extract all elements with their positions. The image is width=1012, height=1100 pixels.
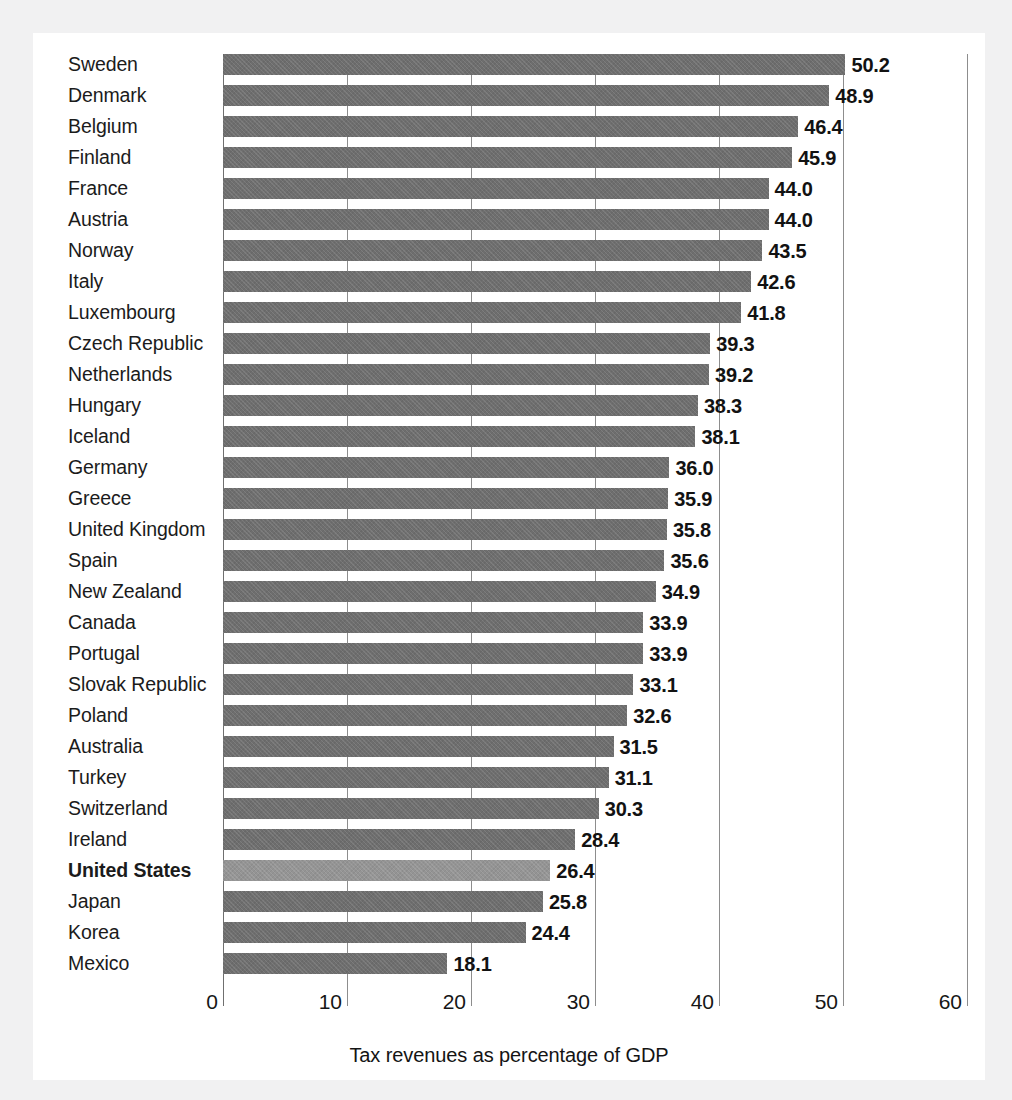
bar (223, 178, 769, 199)
bar-row: Iceland38.1 (33, 426, 985, 457)
bar-row: Turkey31.1 (33, 767, 985, 798)
bar (223, 426, 695, 447)
bar (223, 550, 664, 571)
bar (223, 953, 447, 974)
bar (223, 54, 845, 75)
bar (223, 891, 543, 912)
x-axis-title: Tax revenues as percentage of GDP (33, 1044, 985, 1067)
bar-row: Sweden50.2 (33, 54, 985, 85)
category-label: Italy (68, 271, 216, 292)
bar-value-label: 36.0 (675, 457, 713, 478)
bar-row: Canada33.9 (33, 612, 985, 643)
x-axis-tick-labels: 0102030405060 (33, 990, 985, 1030)
category-label: Hungary (68, 395, 216, 416)
x-tick-label-40: 40 (691, 990, 719, 1014)
category-label: Slovak Republic (68, 674, 216, 695)
bar-row: Belgium46.4 (33, 116, 985, 147)
bar (223, 581, 656, 602)
category-label: Greece (68, 488, 216, 509)
bar (223, 85, 829, 106)
x-tick-label-10: 10 (319, 990, 347, 1014)
bar-value-label: 28.4 (581, 829, 619, 850)
bar-row: New Zealand34.9 (33, 581, 985, 612)
bar (223, 612, 643, 633)
bar-value-label: 39.2 (715, 364, 753, 385)
bar (223, 798, 599, 819)
bar-value-label: 31.5 (620, 736, 658, 757)
bar-row: Finland45.9 (33, 147, 985, 178)
bar-row: Denmark48.9 (33, 85, 985, 116)
x-tick-label-50: 50 (815, 990, 843, 1014)
bar-row: Italy42.6 (33, 271, 985, 302)
bar-value-label: 31.1 (615, 767, 653, 788)
bar-value-label: 42.6 (757, 271, 795, 292)
bar-value-label: 46.4 (804, 116, 842, 137)
category-label: Spain (68, 550, 216, 571)
bar-row: Japan25.8 (33, 891, 985, 922)
category-label: Korea (68, 922, 216, 943)
category-label: Austria (68, 209, 216, 230)
category-label: Norway (68, 240, 216, 261)
category-label: Australia (68, 736, 216, 757)
bar-value-label: 45.9 (798, 147, 836, 168)
x-tick-label-20: 20 (443, 990, 471, 1014)
x-tick-label-30: 30 (567, 990, 595, 1014)
bar-row: Austria44.0 (33, 209, 985, 240)
category-label: Finland (68, 147, 216, 168)
bar-value-label: 43.5 (768, 240, 806, 261)
category-label: Canada (68, 612, 216, 633)
bar (223, 829, 575, 850)
bar-value-label: 35.9 (674, 488, 712, 509)
bar (223, 674, 633, 695)
bar-row: Czech Republic39.3 (33, 333, 985, 364)
category-label: United Kingdom (68, 519, 216, 540)
bar-row: Mexico18.1 (33, 953, 985, 984)
bar-row: France44.0 (33, 178, 985, 209)
bar (223, 271, 751, 292)
figure-panel: Sweden50.2Denmark48.9Belgium46.4Finland4… (33, 33, 985, 1080)
bar (223, 147, 792, 168)
category-label: Netherlands (68, 364, 216, 385)
bar (223, 333, 710, 354)
bar (223, 519, 667, 540)
bar (223, 240, 762, 261)
bar-row: United Kingdom35.8 (33, 519, 985, 550)
x-tick-label-60: 60 (939, 990, 967, 1014)
bar-value-label: 26.4 (556, 860, 594, 881)
category-label: Poland (68, 705, 216, 726)
bar-value-label: 35.6 (670, 550, 708, 571)
bar-row: Norway43.5 (33, 240, 985, 271)
bar (223, 488, 668, 509)
bar-value-label: 34.9 (662, 581, 700, 602)
bar-value-label: 18.1 (453, 953, 491, 974)
bar-value-label: 39.3 (716, 333, 754, 354)
bar-chart-plot-area: Sweden50.2Denmark48.9Belgium46.4Finland4… (33, 33, 985, 1080)
bar (223, 302, 741, 323)
bar-value-label: 33.1 (639, 674, 677, 695)
bar-row: Spain35.6 (33, 550, 985, 581)
bar (223, 922, 526, 943)
bar-row: Portugal33.9 (33, 643, 985, 674)
category-label: Luxembourg (68, 302, 216, 323)
category-label: France (68, 178, 216, 199)
bar-row: Switzerland30.3 (33, 798, 985, 829)
category-label: Turkey (68, 767, 216, 788)
category-label: Ireland (68, 829, 216, 850)
bar-value-label: 41.8 (747, 302, 785, 323)
bar-row: Slovak Republic33.1 (33, 674, 985, 705)
category-label: Iceland (68, 426, 216, 447)
bar (223, 457, 669, 478)
page-top-cutoff-text (0, 0, 1012, 26)
scanned-page: Sweden50.2Denmark48.9Belgium46.4Finland4… (0, 0, 1012, 1100)
bar-row: Luxembourg41.8 (33, 302, 985, 333)
bar-value-label: 24.4 (532, 922, 570, 943)
bar-value-label: 25.8 (549, 891, 587, 912)
category-label: Portugal (68, 643, 216, 664)
bar (223, 116, 798, 137)
bar (223, 643, 643, 664)
bar-row: Hungary38.3 (33, 395, 985, 426)
bar-value-label: 30.3 (605, 798, 643, 819)
category-label: United States (68, 860, 216, 881)
category-label: Sweden (68, 54, 216, 75)
bar-value-label: 44.0 (775, 178, 813, 199)
